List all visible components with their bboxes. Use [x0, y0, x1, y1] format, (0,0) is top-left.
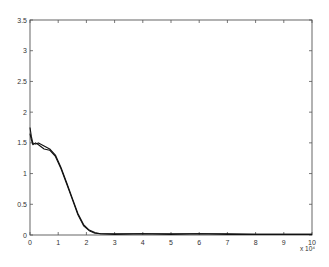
y-tick-label: 3: [23, 47, 27, 54]
x-tick-label: 8: [254, 239, 258, 246]
x-tick-label: 0: [28, 239, 32, 246]
x-tick-label: 2: [84, 239, 88, 246]
axis-ticks: 01234567891000.511.522.533.5: [17, 17, 316, 247]
x-tick-label: 6: [197, 239, 201, 246]
y-tick-label: 2.5: [17, 78, 27, 85]
series-line-curve-1: [30, 128, 312, 235]
y-tick-label: 0: [23, 232, 27, 239]
y-tick-label: 3.5: [17, 17, 27, 24]
x-tick-label: 3: [113, 239, 117, 246]
y-tick-label: 1: [23, 170, 27, 177]
axes-box: [30, 20, 312, 235]
x-tick-label: 4: [141, 239, 145, 246]
plot-frame: [30, 20, 312, 235]
data-series: [30, 128, 312, 235]
y-tick-label: 0.5: [17, 201, 27, 208]
x-tick-label: 1: [56, 239, 60, 246]
x-tick-label: 5: [169, 239, 173, 246]
x-tick-label: 7: [225, 239, 229, 246]
line-chart: 01234567891000.511.522.533.5 x 10⁴: [0, 0, 329, 267]
series-line-curve-2: [30, 134, 312, 235]
y-tick-label: 2: [23, 109, 27, 116]
x-tick-label: 9: [282, 239, 286, 246]
y-tick-label: 1.5: [17, 139, 27, 146]
x-axis-multiplier: x 10⁴: [300, 245, 315, 252]
